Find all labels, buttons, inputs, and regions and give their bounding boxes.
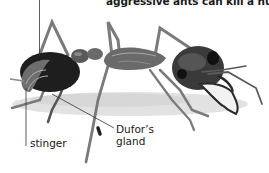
abdomen — [10, 52, 80, 92]
label-dufors-gland: Dufor’s gland — [116, 123, 154, 147]
eye — [207, 51, 219, 65]
leg-middle — [86, 22, 120, 162]
ant-diagram: aggressive ants can kill a human. — [0, 0, 269, 173]
petiole — [71, 48, 103, 63]
label-stinger: stinger — [30, 137, 67, 149]
label-dufors-gland-line2: gland — [116, 135, 154, 147]
label-dufors-gland-line1: Dufor’s — [116, 123, 154, 135]
